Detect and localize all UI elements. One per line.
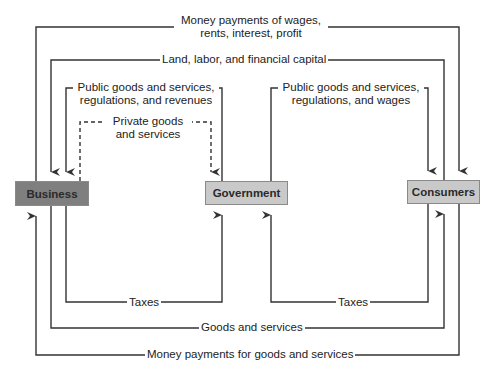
government-label: Government bbox=[213, 187, 281, 199]
label-line: and services bbox=[106, 128, 190, 141]
label-taxes-business: Taxes bbox=[127, 296, 161, 309]
label-money-goods: Money payments for goods and services bbox=[145, 348, 355, 361]
label-line: Public goods and services, bbox=[75, 81, 217, 94]
government-node: Government bbox=[205, 181, 288, 205]
business-label: Business bbox=[26, 188, 77, 200]
label-goods-services: Goods and services bbox=[199, 321, 305, 334]
label-line: regulations, and wages bbox=[280, 94, 422, 107]
label-public-goods-business: Public goods and services, regulations, … bbox=[73, 81, 219, 107]
label-private-goods: Private goods and services bbox=[104, 115, 192, 141]
label-taxes-consumers: Taxes bbox=[336, 296, 370, 309]
label-money-wages: Money payments of wages, rents, interest… bbox=[174, 14, 328, 40]
consumers-node: Consumers bbox=[407, 180, 480, 204]
label-line: Private goods bbox=[106, 115, 190, 128]
label-public-goods-consumers: Public goods and services, regulations, … bbox=[278, 81, 424, 107]
label-line: regulations, and revenues bbox=[75, 94, 217, 107]
flow-taxes-consumers bbox=[271, 204, 428, 302]
label-line: Public goods and services, bbox=[280, 81, 422, 94]
label-line: Money payments of wages, bbox=[176, 14, 326, 27]
label-line: rents, interest, profit bbox=[176, 27, 326, 40]
consumers-label: Consumers bbox=[412, 186, 475, 198]
flow-taxes-business bbox=[66, 206, 222, 302]
business-node: Business bbox=[15, 181, 89, 206]
flow-goods-services bbox=[51, 206, 444, 328]
label-land-labor: Land, labor, and financial capital bbox=[160, 53, 328, 66]
